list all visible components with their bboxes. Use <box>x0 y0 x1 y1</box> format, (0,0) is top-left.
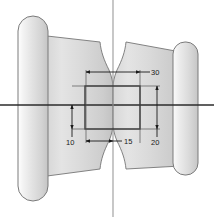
hub-body-left <box>47 36 113 176</box>
technical-drawing-svg: 30 15 10 20 <box>0 0 214 217</box>
dim-30-label: 30 <box>151 68 160 77</box>
dim-10-label: 10 <box>66 138 75 147</box>
left-flange-capsule <box>18 16 48 201</box>
technical-drawing-canvas: 30 15 10 20 <box>0 0 214 217</box>
part-geometry <box>18 16 198 201</box>
dim-15-label: 15 <box>124 137 133 146</box>
right-flange-capsule <box>173 42 198 175</box>
dim-20-label: 20 <box>151 138 160 147</box>
